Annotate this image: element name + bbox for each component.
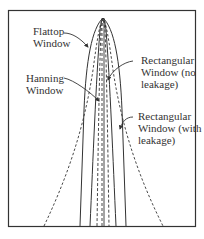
rect-no-leakage-label-line3: leakage) [141,78,196,90]
flattop-label: Flattop Window [33,25,70,49]
rect-no-leakage-label: Rectangular Window (no leakage) [141,54,196,90]
rect-with-leakage-label-line1: Rectangular [138,110,201,122]
flattop-label-line1: Flattop [33,25,70,37]
flattop-curve [80,18,126,226]
rect-no-leakage-label-line2: Window (no [141,66,196,78]
rect-no-leakage-label-line1: Rectangular [141,54,196,66]
rect-with-leakage-label: Rectangular Window (with leakage) [138,110,201,146]
rect-with-leakage-label-line2: Window (with [138,122,201,134]
rect-no-leakage-leader [108,61,133,80]
hanning-curve [90,18,116,226]
hanning-label: Hanning Window [26,72,64,96]
hanning-label-line1: Hanning [26,72,64,84]
hanning-leader [64,78,99,101]
flattop-label-line2: Window [33,37,70,49]
rect-with-leakage-label-line3: leakage) [138,134,201,146]
hanning-label-line2: Window [26,84,64,96]
